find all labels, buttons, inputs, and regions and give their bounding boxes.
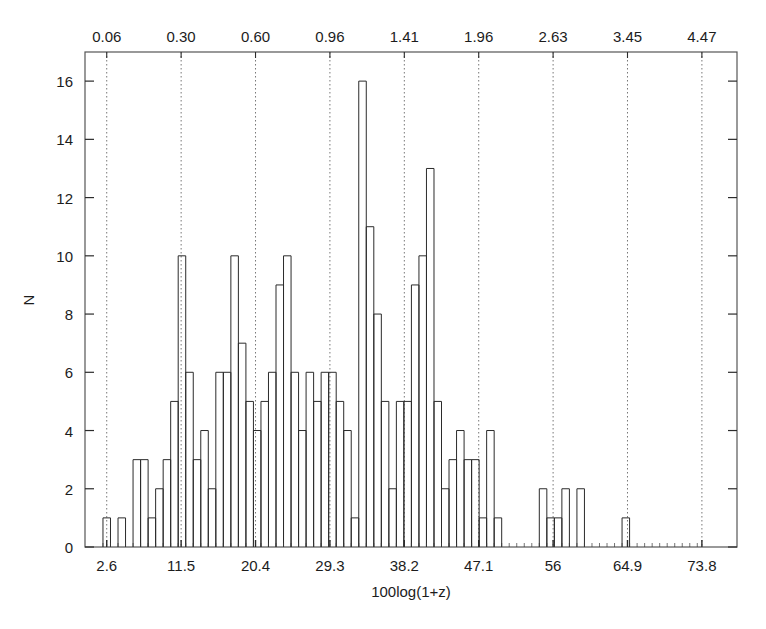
histogram-bar bbox=[366, 227, 374, 547]
histogram-bar bbox=[246, 401, 254, 547]
top-tick-label: 2.63 bbox=[539, 28, 568, 45]
figure-container: 2.611.520.429.338.247.15664.973.8 0.060.… bbox=[0, 0, 766, 629]
top-tick-label: 0.06 bbox=[92, 28, 121, 45]
histogram-bar bbox=[201, 431, 209, 547]
histogram-bar bbox=[539, 489, 547, 547]
histogram-bar bbox=[404, 401, 412, 547]
x-tick-label: 56 bbox=[545, 557, 562, 574]
histogram-bar bbox=[178, 256, 186, 547]
x-tick-label: 38.2 bbox=[390, 557, 419, 574]
histogram-bar bbox=[284, 256, 292, 547]
histogram-bar bbox=[186, 372, 194, 547]
histogram-bar bbox=[276, 285, 284, 547]
y-tick-label: 0 bbox=[65, 539, 73, 556]
histogram-bar bbox=[622, 518, 630, 547]
histogram-bar bbox=[261, 401, 269, 547]
x-axis-title: 100log(1+z) bbox=[371, 583, 451, 600]
histogram-bar bbox=[253, 431, 261, 547]
histogram-bar bbox=[426, 168, 434, 547]
histogram-bar bbox=[494, 518, 502, 547]
histogram-bar bbox=[216, 372, 224, 547]
top-tick-label: 3.45 bbox=[613, 28, 642, 45]
histogram-bar bbox=[554, 518, 562, 547]
histogram-bar bbox=[472, 460, 480, 547]
histogram-bar bbox=[193, 460, 201, 547]
histogram-bar bbox=[374, 314, 382, 547]
histogram-bar bbox=[411, 285, 419, 547]
histogram-bar bbox=[457, 431, 465, 547]
histogram-bar bbox=[141, 460, 149, 547]
y-tick-label: 8 bbox=[65, 306, 73, 323]
histogram-bar bbox=[449, 460, 457, 547]
histogram-bar bbox=[479, 518, 487, 547]
histogram-bar bbox=[321, 372, 329, 547]
histogram-bar bbox=[577, 489, 585, 547]
top-tick-label: 1.96 bbox=[464, 28, 493, 45]
top-tick-label: 4.47 bbox=[687, 28, 716, 45]
histogram-bar bbox=[419, 256, 427, 547]
histogram-bar bbox=[442, 489, 450, 547]
x-tick-label: 2.6 bbox=[96, 557, 117, 574]
histogram-bar bbox=[344, 431, 352, 547]
top-tick-label: 0.96 bbox=[315, 28, 344, 45]
x-tick-label: 11.5 bbox=[167, 557, 195, 574]
histogram-bar bbox=[389, 489, 397, 547]
histogram-bar bbox=[163, 460, 171, 547]
histogram-bar bbox=[208, 489, 216, 547]
x-tick-label: 47.1 bbox=[464, 557, 493, 574]
top-tick-label: 0.30 bbox=[167, 28, 196, 45]
histogram-bar bbox=[562, 489, 570, 547]
histogram-bar bbox=[306, 372, 314, 547]
y-tick-label: 14 bbox=[56, 131, 73, 148]
y-tick-label: 6 bbox=[65, 364, 73, 381]
figure-partial-title bbox=[0, 0, 766, 8]
histogram-bar bbox=[314, 401, 322, 547]
histogram-bar bbox=[223, 372, 231, 547]
y-tick-label: 4 bbox=[65, 423, 73, 440]
y-tick-label: 12 bbox=[56, 190, 73, 207]
x-tick-label: 73.8 bbox=[687, 557, 716, 574]
histogram-bar bbox=[156, 489, 164, 547]
histogram-chart: 2.611.520.429.338.247.15664.973.8 0.060.… bbox=[0, 0, 766, 629]
x-tick-label: 64.9 bbox=[613, 557, 642, 574]
x-axis: 2.611.520.429.338.247.15664.973.8 bbox=[96, 540, 716, 574]
histogram-bar bbox=[231, 256, 239, 547]
y-tick-label: 16 bbox=[56, 73, 73, 90]
top-tick-label: 0.60 bbox=[241, 28, 270, 45]
y-axis-title: N bbox=[20, 295, 37, 306]
histogram-bar bbox=[396, 401, 404, 547]
histogram-bar bbox=[434, 401, 442, 547]
y-tick-label: 2 bbox=[65, 481, 73, 498]
top-secondary-axis: 0.060.300.600.961.411.962.633.454.47 bbox=[92, 28, 716, 58]
histogram-bar bbox=[171, 401, 179, 547]
x-tick-label: 29.3 bbox=[315, 557, 344, 574]
histogram-bar bbox=[351, 518, 359, 547]
top-tick-label: 1.41 bbox=[390, 28, 419, 45]
histogram-bar bbox=[299, 431, 307, 547]
histogram-bar bbox=[133, 460, 141, 547]
histogram-bar bbox=[359, 81, 367, 547]
histogram-bar bbox=[268, 372, 276, 547]
histogram-bar bbox=[381, 401, 389, 547]
histogram-bar bbox=[291, 372, 299, 547]
x-tick-label: 20.4 bbox=[241, 557, 270, 574]
y-axis-right-ticks bbox=[728, 81, 737, 547]
y-tick-label: 10 bbox=[56, 248, 73, 265]
histogram-bars bbox=[103, 81, 630, 547]
y-axis: 0246810121416 bbox=[56, 73, 94, 556]
histogram-bar bbox=[118, 518, 126, 547]
histogram-bar bbox=[487, 431, 495, 547]
histogram-bar bbox=[148, 518, 156, 547]
histogram-bar bbox=[336, 401, 344, 547]
histogram-bar bbox=[238, 343, 246, 547]
histogram-bar bbox=[464, 460, 472, 547]
